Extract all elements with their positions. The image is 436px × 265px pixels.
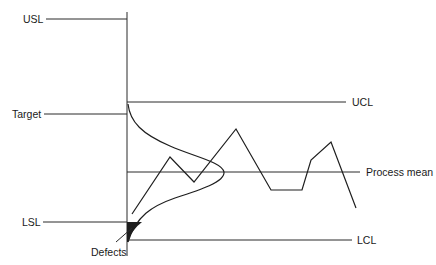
process-control-diagram: USL Target LSL UCL Process mean LCL Defe… — [0, 0, 436, 265]
defects-label: Defects — [91, 246, 127, 258]
defects-annotation: Defects — [91, 228, 132, 258]
target-label: Target — [12, 108, 41, 120]
lcl-marker: LCL — [127, 234, 376, 246]
usl-marker: USL — [23, 13, 127, 25]
lsl-marker: LSL — [22, 216, 127, 228]
target-marker: Target — [12, 108, 127, 120]
ucl-label: UCL — [352, 96, 373, 108]
process-mean-label: Process mean — [366, 166, 433, 178]
usl-label: USL — [23, 13, 44, 25]
process-mean-marker: Process mean — [127, 166, 433, 178]
lsl-label: LSL — [22, 216, 41, 228]
lcl-label: LCL — [357, 234, 376, 246]
ucl-marker: UCL — [127, 96, 373, 108]
distribution-curve — [128, 104, 224, 242]
